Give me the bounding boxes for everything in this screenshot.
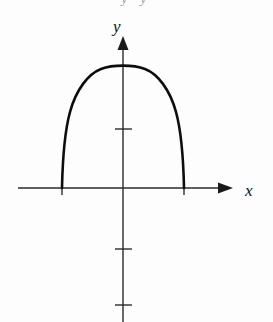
figure-canvas: y y y x bbox=[0, 0, 273, 322]
graph-figure: y x bbox=[0, 0, 273, 322]
axis-labels-group: y x bbox=[111, 17, 253, 200]
x-axis-label: x bbox=[244, 181, 253, 200]
arrow-up-icon bbox=[118, 36, 129, 50]
axes-group bbox=[18, 36, 233, 322]
arrow-right-icon bbox=[218, 183, 233, 194]
y-axis-label: y bbox=[111, 17, 121, 36]
